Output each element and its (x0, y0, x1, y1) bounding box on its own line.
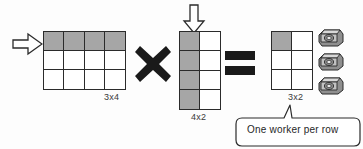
matrix-b-cell (180, 32, 200, 51)
matrix-b-cell (180, 90, 200, 109)
matrix-a-cell (105, 51, 125, 70)
matrix-a-cell (64, 32, 84, 51)
matrix-a-cell (44, 70, 64, 89)
matrix-c-cell (292, 51, 312, 70)
matrix-c-cell (292, 70, 312, 89)
matrix-a-cell (85, 32, 105, 51)
matrix-a-cell (44, 51, 64, 70)
diagram-canvas: 3x4 4x2 3x2 (0, 0, 363, 149)
matrix-a-cell (64, 51, 84, 70)
matrix-a-cell (105, 70, 125, 89)
matrix-c-cell (272, 70, 292, 89)
matrix-a-grid (43, 31, 126, 90)
matrix-a-label: 3x4 (104, 92, 119, 102)
matrix-a-cell (85, 51, 105, 70)
callout-text: One worker per row (247, 124, 338, 135)
matrix-c-cell (272, 51, 292, 70)
matrix-b-cell (200, 51, 220, 70)
matrix-b-label: 4x2 (191, 112, 206, 122)
multiply-icon (133, 44, 173, 84)
matrix-b-cell (200, 90, 220, 109)
arrow-right-icon (12, 32, 43, 56)
equals-icon (224, 48, 256, 78)
matrix-b-cell (180, 51, 200, 70)
matrix-a-cell (85, 70, 105, 89)
matrix-c-cell (292, 32, 312, 51)
matrix-b-cell (180, 71, 200, 90)
matrix-b-cell (200, 32, 220, 51)
processor-chip-icon (318, 51, 344, 73)
matrix-b-grid (179, 31, 221, 110)
arrow-down-icon (182, 4, 206, 34)
matrix-a-cell (44, 32, 64, 51)
matrix-a-cell (105, 32, 125, 51)
matrix-c-label: 3x2 (288, 92, 303, 102)
matrix-a-cell (64, 70, 84, 89)
matrix-c-cell (272, 32, 292, 51)
matrix-b-cell (200, 71, 220, 90)
processor-chip-icon (318, 27, 344, 49)
processor-chip-icon (318, 75, 344, 97)
matrix-c-grid (271, 31, 313, 90)
